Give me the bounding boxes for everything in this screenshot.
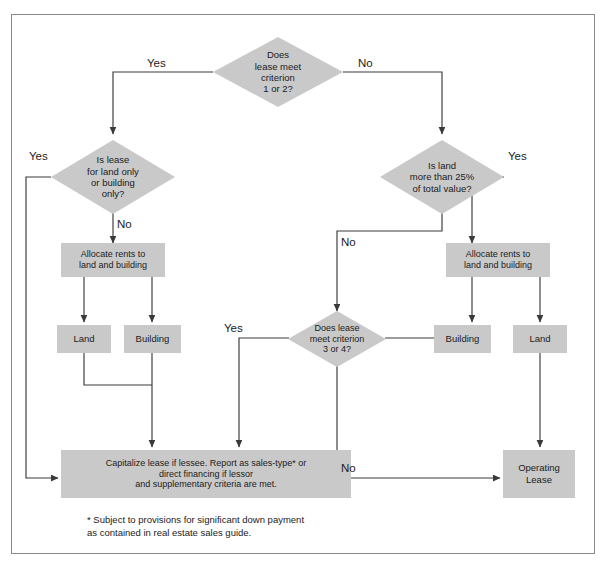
terminal-capitalize-lease-label: Capitalize lease if lessee. Report as sa… <box>102 458 311 491</box>
edge-label-yes-criterion34: Yes <box>224 322 243 334</box>
process-allocate-rents-right-label: Allocate rents to land and building <box>460 249 536 271</box>
process-allocate-rents-left-label: Allocate rents to land and building <box>75 249 151 271</box>
decision-land-more-than-25-label: Is land more than 25% of total value? <box>380 140 504 214</box>
footnote: * Subject to provisions for significant … <box>87 514 304 540</box>
process-building-left[interactable]: Building <box>124 325 181 353</box>
decision-land-more-than-25[interactable]: Is land more than 25% of total value? <box>380 140 504 214</box>
terminal-capitalize-lease[interactable]: Capitalize lease if lessee. Report as sa… <box>61 450 351 498</box>
decision-land-or-building-only-label: Is lease for land only or building only? <box>51 140 175 214</box>
process-allocate-rents-left[interactable]: Allocate rents to land and building <box>61 243 165 277</box>
decision-land-or-building-only[interactable]: Is lease for land only or building only? <box>51 140 175 214</box>
decision-criterion-3-or-4[interactable]: Does lease meet criterion 3 or 4? <box>289 311 385 367</box>
edge-label-no-landbuildingonly: No <box>117 218 132 230</box>
process-land-left-label: Land <box>69 333 98 345</box>
edge-label-no-criterion12: No <box>358 57 373 69</box>
process-land-right-label: Land <box>525 333 554 345</box>
edge-label-no-criterion34: No <box>341 462 356 474</box>
terminal-operating-lease[interactable]: Operating Lease <box>503 450 575 498</box>
terminal-operating-lease-label: Operating Lease <box>514 462 564 485</box>
process-building-right-label: Building <box>442 333 484 345</box>
edge-label-yes-landbuildingonly: Yes <box>29 150 48 162</box>
decision-criterion-1-or-2[interactable]: Does lease meet criterion 1 or 2? <box>213 37 343 107</box>
decision-criterion-1-or-2-label: Does lease meet criterion 1 or 2? <box>213 37 343 107</box>
edge-label-yes-landmore25: Yes <box>508 150 527 162</box>
process-land-right[interactable]: Land <box>513 325 567 353</box>
flowchart-canvas: Does lease meet criterion 1 or 2? Is lea… <box>0 0 607 565</box>
edge-label-yes-criterion12: Yes <box>147 57 166 69</box>
process-land-left[interactable]: Land <box>57 325 111 353</box>
process-allocate-rents-right[interactable]: Allocate rents to land and building <box>446 243 550 277</box>
decision-criterion-3-or-4-label: Does lease meet criterion 3 or 4? <box>289 311 385 367</box>
process-building-right[interactable]: Building <box>434 325 491 353</box>
process-building-left-label: Building <box>132 333 174 345</box>
edge-label-no-landmore25: No <box>341 236 356 248</box>
